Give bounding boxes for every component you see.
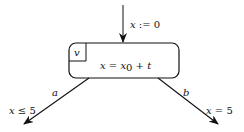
edge-a-arrow — [24, 78, 89, 124]
edge-b: b x = 5 — [158, 78, 233, 124]
initial-edge: x := 0 — [123, 5, 160, 42]
location-name: v — [74, 47, 80, 58]
edge-b-arrow — [158, 78, 218, 124]
location-v: v x = x0 + t — [69, 43, 179, 78]
automaton-diagram: x := 0 v x = x0 + t a x ≤ 5 b x = 5 — [0, 0, 244, 132]
edge-a-label: a — [52, 87, 58, 98]
edge-b-guard: x = 5 — [206, 105, 233, 116]
edge-b-label: b — [183, 87, 189, 98]
edge-a-guard: x ≤ 5 — [9, 105, 36, 116]
edge-a: a x ≤ 5 — [9, 78, 89, 124]
initial-edge-label: x := 0 — [130, 19, 160, 30]
